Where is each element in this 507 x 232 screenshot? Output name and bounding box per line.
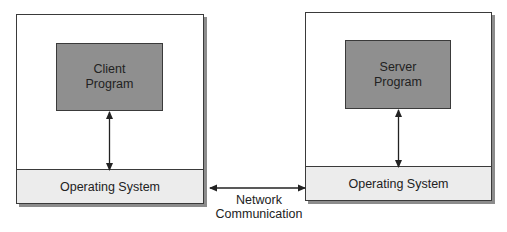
network-label-line1: Network bbox=[209, 193, 309, 207]
network-label-line2: Communication bbox=[209, 207, 309, 221]
network-label: Network Communication bbox=[209, 193, 309, 221]
